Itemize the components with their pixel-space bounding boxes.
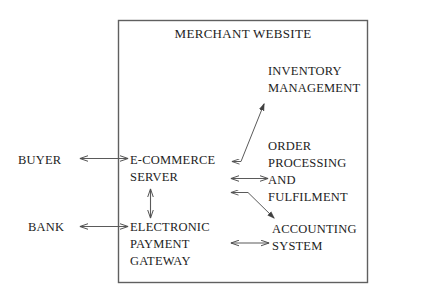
node-inventory-management: INVENTORY MANAGEMENT bbox=[268, 63, 360, 97]
node-accounting-system: ACCOUNTING SYSTEM bbox=[272, 221, 357, 255]
merchant-website-title: MERCHANT WEBSITE bbox=[118, 25, 368, 42]
node-bank: BANK bbox=[28, 219, 64, 236]
diagram-canvas: MERCHANT WEBSITE BUYER BANK E-COMMERCE S… bbox=[0, 0, 424, 304]
node-order-processing: ORDER PROCESSING AND FULFILMENT bbox=[268, 138, 368, 206]
connector-ecommerce-inventory bbox=[232, 104, 264, 162]
node-electronic-payment-gateway: ELECTRONIC PAYMENT GATEWAY bbox=[130, 219, 210, 270]
node-buyer: BUYER bbox=[18, 152, 61, 169]
node-ecommerce-server: E-COMMERCE SERVER bbox=[130, 152, 215, 186]
